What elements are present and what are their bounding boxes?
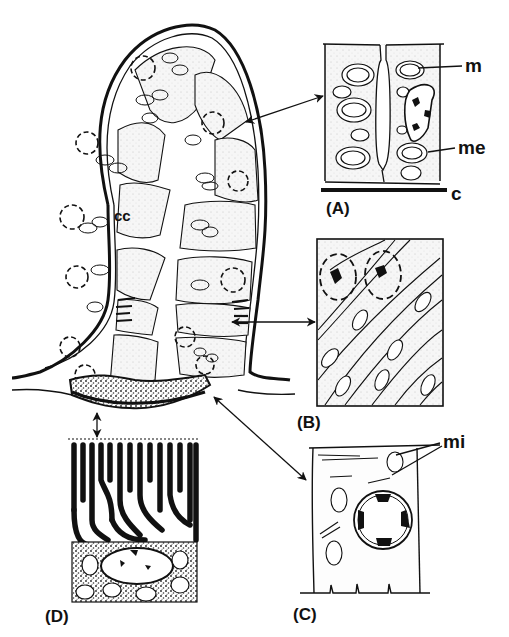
label-c: c (451, 184, 462, 203)
panel-b (317, 239, 443, 406)
panel-c (300, 445, 440, 593)
label-me: me (458, 138, 485, 157)
gastric-gland-diagram: cc (0, 0, 509, 637)
cuticle-bar (321, 188, 447, 192)
panel-a-label: (A) (326, 200, 350, 217)
panel-c-label: (C) (293, 606, 317, 623)
label-mi: mi (443, 432, 465, 451)
panel-a (321, 44, 447, 192)
panel-b-label: (B) (297, 414, 321, 431)
central-canal-label: cc (114, 208, 131, 223)
panel-d (68, 439, 198, 602)
arrow-to-c (214, 397, 306, 480)
panel-d-label: (D) (45, 608, 69, 625)
label-m: m (465, 56, 482, 75)
